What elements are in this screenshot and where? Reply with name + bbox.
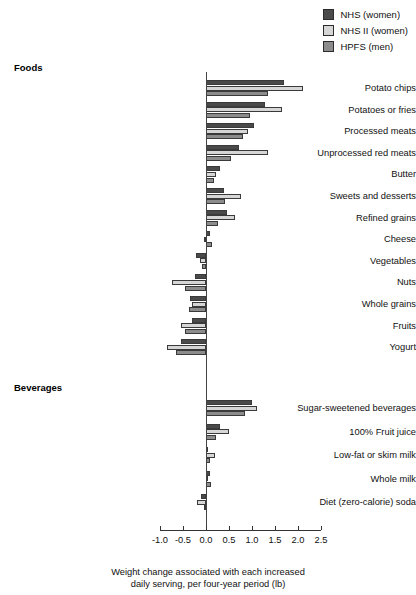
axis-tick-label: 2.5: [301, 535, 341, 545]
legend-item-hpfs: HPFS (men): [323, 40, 408, 53]
legend-label-nhs: NHS (women): [340, 10, 400, 20]
bar-nhs2: [206, 172, 216, 177]
bar-hpfs: [185, 286, 206, 291]
bar-nhs: [206, 400, 252, 405]
bar-nhs: [195, 274, 207, 279]
bar-hpfs: [206, 91, 268, 96]
bar-nhs2: [206, 215, 235, 220]
axis-tick: [298, 526, 299, 530]
bar-hpfs: [206, 113, 250, 118]
bar-nhs: [206, 424, 220, 429]
axis-tick: [206, 526, 207, 530]
legend-label-hpfs: HPFS (men): [340, 42, 393, 52]
bar-hpfs: [189, 307, 206, 312]
category-label: Fruits: [218, 321, 416, 331]
bar-nhs2: [197, 500, 206, 505]
axis-title-line2: daily serving, per four-year period (lb): [0, 578, 416, 590]
axis-tick: [252, 526, 253, 530]
bar-nhs2: [206, 86, 303, 91]
bar-hpfs: [176, 350, 206, 355]
axis-tick: [183, 526, 184, 530]
bar-nhs: [206, 80, 284, 85]
bar-hpfs: [206, 199, 225, 204]
axis-tick: [229, 526, 230, 530]
bar-nhs2: [192, 302, 206, 307]
bar-nhs: [206, 102, 265, 107]
chart-root: NHS (women) NHS II (women) HPFS (men) Fo…: [0, 0, 416, 595]
foods-heading: Foods: [14, 62, 43, 73]
bar-hpfs: [206, 435, 216, 440]
bar-nhs: [206, 166, 220, 171]
bar-nhs2: [206, 129, 248, 134]
bar-nhs2: [206, 429, 229, 434]
bar-nhs: [196, 253, 206, 258]
legend-swatch-nhs: [323, 9, 334, 20]
category-label: Vegetables: [218, 256, 416, 266]
legend-item-nhs2: NHS II (women): [323, 24, 408, 37]
bar-nhs2: [181, 323, 206, 328]
category-label: Whole grains: [218, 299, 416, 309]
category-label: Butter: [218, 169, 416, 179]
bar-nhs: [190, 296, 206, 301]
legend-label-nhs2: NHS II (women): [340, 26, 408, 36]
category-label: Nuts: [218, 277, 416, 287]
axis-title-line1: Weight change associated with each incre…: [0, 566, 416, 578]
category-label: Refined grains: [218, 213, 416, 223]
category-label: 100% Fruit juice: [218, 427, 416, 437]
bar-nhs2: [206, 453, 215, 458]
axis-tick: [275, 526, 276, 530]
category-label: Low-fat or skim milk: [218, 450, 416, 460]
chart-legend: NHS (women) NHS II (women) HPFS (men): [323, 8, 408, 56]
zero-reference-line: [206, 72, 207, 530]
bar-nhs2: [206, 107, 282, 112]
legend-item-nhs: NHS (women): [323, 8, 408, 21]
category-label: Whole milk: [218, 474, 416, 484]
axis-tick: [160, 526, 161, 530]
category-label: Yogurt: [218, 342, 416, 352]
bar-nhs2: [206, 194, 241, 199]
bar-nhs2: [172, 280, 207, 285]
bar-nhs2: [206, 150, 268, 155]
bar-nhs: [206, 210, 227, 215]
bar-nhs2: [167, 345, 206, 350]
axis-line: [160, 530, 321, 531]
bar-hpfs: [206, 156, 231, 161]
axis-tick: [321, 526, 322, 530]
bar-hpfs: [185, 329, 206, 334]
bar-hpfs: [206, 221, 218, 226]
bar-hpfs: [206, 178, 214, 183]
bar-hpfs: [206, 134, 243, 139]
bar-nhs: [192, 318, 206, 323]
category-label: Sweets and desserts: [218, 191, 416, 201]
bar-hpfs: [206, 411, 245, 416]
legend-swatch-hpfs: [323, 41, 334, 52]
bar-nhs: [206, 123, 254, 128]
legend-swatch-nhs2: [323, 25, 334, 36]
category-label: Diet (zero-calorie) soda: [218, 497, 416, 507]
bar-nhs: [206, 145, 239, 150]
beverages-heading: Beverages: [14, 382, 62, 393]
bar-nhs2: [206, 406, 257, 411]
bar-nhs: [206, 188, 224, 193]
category-label: Cheese: [218, 234, 416, 244]
bar-nhs: [181, 339, 206, 344]
